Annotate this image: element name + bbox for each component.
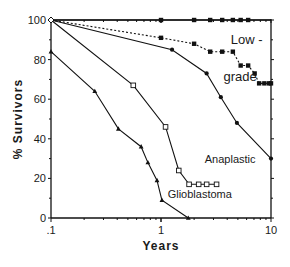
data-point: [205, 71, 209, 75]
data-point: [160, 198, 165, 202]
data-point: [238, 63, 242, 67]
data-point: [192, 42, 196, 46]
x-axis-ticks: .1110: [46, 20, 277, 236]
data-point: [187, 182, 192, 187]
annotation-label: Anaplastic: [205, 153, 256, 165]
y-tick-label: 100: [28, 14, 46, 26]
data-point: [235, 121, 239, 125]
survival-chart: 020406080100 .1110 Low -gradeAnaplasticG…: [0, 0, 290, 267]
plot-frame: [51, 19, 271, 218]
data-point: [49, 49, 54, 53]
data-point: [204, 182, 209, 187]
data-point: [262, 81, 266, 85]
x-tick-label: 10: [265, 224, 277, 236]
data-point: [269, 157, 273, 161]
data-point: [163, 125, 168, 130]
data-point: [231, 18, 235, 22]
data-point: [192, 18, 196, 22]
y-tick-label: 80: [34, 54, 46, 66]
data-point: [208, 49, 212, 53]
x-axis-label: Years: [142, 239, 179, 253]
data-point: [155, 178, 160, 182]
data-point: [220, 18, 224, 22]
data-point: [208, 18, 212, 22]
data-point: [246, 63, 250, 67]
y-tick-label: 0: [40, 212, 46, 224]
data-point: [238, 18, 242, 22]
annotation-label: grade: [224, 69, 257, 84]
data-point: [246, 18, 250, 22]
y-tick-label: 40: [34, 133, 46, 145]
data-point: [196, 182, 201, 187]
data-point: [269, 81, 273, 85]
y-tick-label: 60: [34, 93, 46, 105]
data-point: [170, 48, 174, 52]
series-layer: [48, 17, 273, 220]
data-point: [219, 95, 223, 99]
y-axis-label: % Survivors: [11, 79, 25, 159]
annotation-label: Low -: [231, 32, 263, 47]
data-point: [145, 160, 150, 164]
annotation-label: Glioblastoma: [168, 188, 233, 200]
data-point: [159, 36, 163, 40]
data-point: [176, 168, 181, 173]
y-tick-label: 20: [34, 172, 46, 184]
data-point: [159, 18, 163, 22]
data-point: [214, 182, 219, 187]
x-tick-label: 1: [158, 224, 164, 236]
data-point: [220, 49, 224, 53]
data-point: [231, 49, 235, 53]
data-point: [131, 83, 136, 88]
data-point: [257, 81, 261, 85]
x-tick-label: .1: [46, 224, 55, 236]
